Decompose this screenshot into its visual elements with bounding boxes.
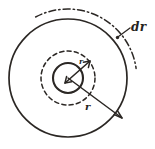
- label-dr: dr: [131, 20, 146, 34]
- figure-canvas: dr r r: [0, 0, 155, 149]
- label-inner-radius: r: [79, 57, 83, 66]
- dr-leader-dot: [116, 36, 119, 39]
- label-radius: r: [85, 101, 90, 112]
- inner-radius-arrow-line: [65, 61, 90, 83]
- radius-arrow-line: [68, 78, 122, 118]
- differential-radius-arc: [36, 9, 137, 68]
